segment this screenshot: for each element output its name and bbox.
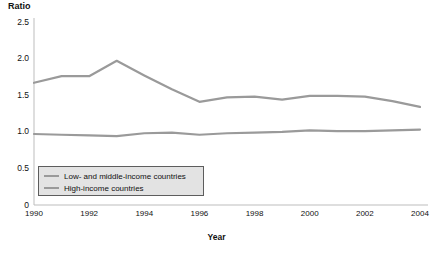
legend-item-label: Low- and middle-income countries [64, 172, 186, 181]
series-line-high-income [34, 130, 420, 137]
chart-legend: Low- and middle-income countries High-in… [38, 166, 204, 196]
plot-area [0, 0, 433, 256]
series-line-low-and-middle-income [34, 61, 420, 107]
legend-item-label: High-income countries [64, 184, 144, 193]
legend-item-high-income: High-income countries [44, 182, 144, 194]
legend-line-swatch-icon [44, 187, 59, 189]
legend-item-low-and-middle-income: Low- and middle-income countries [44, 170, 186, 182]
legend-line-swatch-icon [44, 175, 59, 177]
chart-container: Ratio 00.51.01.52.02.5 19901992199419961… [0, 0, 433, 256]
x-axis-title: Year [0, 232, 433, 242]
